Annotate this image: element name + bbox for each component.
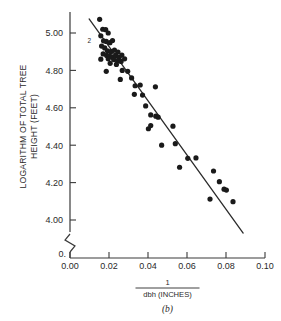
data-point <box>106 56 111 61</box>
data-point <box>173 141 178 146</box>
data-point <box>177 165 182 170</box>
data-point <box>125 69 130 74</box>
data-point <box>118 77 123 82</box>
y-axis-zero-label: 0. <box>58 249 66 259</box>
data-point <box>148 112 153 117</box>
data-point <box>193 155 198 160</box>
x-axis-tick-label: 0.06 <box>178 261 196 271</box>
y-axis-tick-label: 4.40 <box>45 141 63 151</box>
x-axis-tick-label: 0.08 <box>217 261 235 271</box>
data-point <box>159 143 164 148</box>
data-point <box>132 92 137 97</box>
figure-caption: (b) <box>162 304 173 315</box>
x-axis-tick-label: 0.10 <box>256 261 274 271</box>
data-point <box>97 17 102 22</box>
y-axis-tick-label: 4.80 <box>45 66 63 76</box>
x-axis-title-numerator: 1 <box>165 278 169 287</box>
data-point <box>98 33 103 38</box>
y-axis-tick-label: 4.20 <box>45 178 63 188</box>
data-point <box>114 62 119 67</box>
x-axis-title-denominator: dbh (INCHES) <box>143 290 192 299</box>
data-point <box>211 168 216 173</box>
data-point <box>185 156 190 161</box>
data-point <box>217 179 222 184</box>
data-point <box>133 83 138 88</box>
data-point <box>153 84 158 89</box>
figure-container: 4.004.204.404.604.805.000.0.000.020.040.… <box>0 0 281 321</box>
x-axis-tick-label: 0.02 <box>100 261 118 271</box>
y-axis-title-line1: LOGARITHM OF TOTAL TREE <box>18 64 28 188</box>
data-point <box>207 196 212 201</box>
data-point <box>230 199 235 204</box>
data-point <box>224 187 229 192</box>
y-axis-tick-label: 4.60 <box>45 103 63 113</box>
data-point <box>110 38 115 43</box>
data-point <box>104 69 109 74</box>
data-point <box>140 92 145 97</box>
data-point <box>143 103 148 108</box>
overlap-count-annotation: 2 <box>87 37 91 44</box>
scatter-plot: 4.004.204.404.604.805.000.0.000.020.040.… <box>0 0 281 321</box>
data-point <box>98 57 103 62</box>
y-axis-title-line2: HEIGHT (FEET) <box>29 94 39 159</box>
data-point <box>148 123 153 128</box>
data-point <box>108 61 113 66</box>
x-axis-tick-label: 0.04 <box>139 261 157 271</box>
data-point <box>170 124 175 129</box>
data-point <box>156 115 161 120</box>
data-point <box>129 75 134 80</box>
data-point <box>106 30 111 35</box>
y-axis-tick-label: 4.00 <box>45 215 63 225</box>
data-point <box>120 68 125 73</box>
y-axis-break-symbol <box>65 234 75 252</box>
x-axis-tick-label: 0.00 <box>61 261 79 271</box>
y-axis-tick-label: 5.00 <box>45 28 63 38</box>
data-point <box>122 56 127 61</box>
data-point <box>138 82 143 87</box>
